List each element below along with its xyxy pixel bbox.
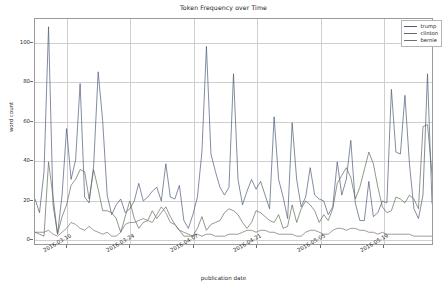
y-tick-mark [30,121,33,122]
y-tick-mark [30,160,33,161]
x-axis-label: publication date [0,275,447,281]
legend-swatch-clinton [404,33,417,34]
x-tick-mark [193,245,194,248]
y-tick-mark [30,200,33,201]
x-tick-mark [66,245,67,248]
x-tick-mark [383,245,384,248]
y-tick-mark [30,239,33,240]
chart-figure: Token Frequency over Time word count 020… [0,0,447,288]
legend-item-clinton[interactable]: clinton [404,30,438,37]
x-tick-mark [320,245,321,248]
legend-item-trump[interactable]: trump [404,23,438,30]
plot-area [34,18,433,245]
legend-item-bernie[interactable]: bernie [404,37,438,44]
legend-swatch-trump [404,26,417,27]
legend-label-trump: trump [420,23,436,30]
y-tick-mark [30,81,33,82]
x-tick-mark [256,245,257,248]
legend-swatch-bernie [404,40,417,41]
series-lines [35,19,432,244]
chart-legend: trump clinton bernie [401,20,442,47]
legend-label-clinton: clinton [420,30,438,37]
x-tick-mark [129,245,130,248]
series-line-trump [35,27,432,234]
y-axis-tick-marks [0,18,34,245]
chart-title: Token Frequency over Time [0,4,447,11]
legend-label-bernie: bernie [420,37,436,44]
y-tick-mark [30,42,33,43]
